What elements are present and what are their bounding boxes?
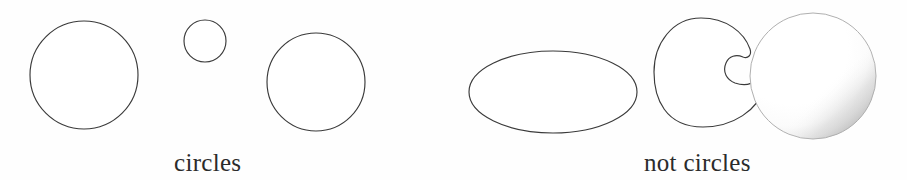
circles-group-region — [18, 6, 388, 146]
circles-vs-not-circles-figure: circles not circles — [0, 0, 907, 180]
circles-caption: circles — [174, 150, 241, 175]
not-circles-caption: not circles — [644, 150, 751, 175]
not-circles-group-region — [460, 6, 890, 146]
